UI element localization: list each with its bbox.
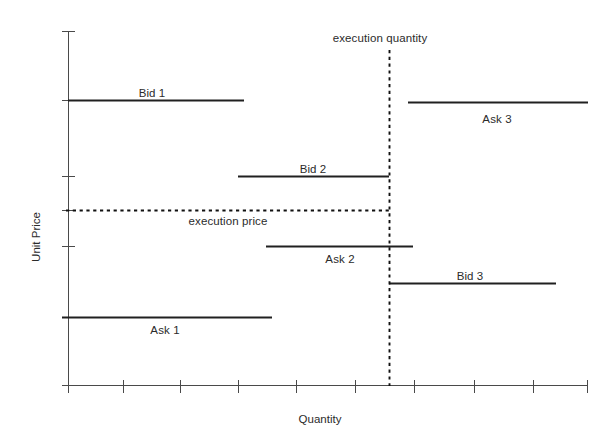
series-label-ask-2: Ask 2 bbox=[325, 254, 354, 266]
order-book-chart: Bid 1 Bid 2 Bid 3 Ask 1 Ask 2 Ask 3 exec… bbox=[0, 0, 612, 447]
series-label-bid-3: Bid 3 bbox=[457, 271, 484, 283]
y-axis-title: Unit Price bbox=[30, 212, 42, 262]
x-axis-title: Quantity bbox=[299, 413, 342, 425]
chart-canvas bbox=[0, 0, 612, 447]
execution-price-label: execution price bbox=[189, 216, 268, 228]
series-label-bid-2: Bid 2 bbox=[300, 164, 327, 176]
series-label-ask-3: Ask 3 bbox=[482, 114, 511, 126]
series-label-bid-1: Bid 1 bbox=[139, 88, 166, 100]
execution-quantity-label: execution quantity bbox=[333, 33, 428, 45]
series-label-ask-1: Ask 1 bbox=[150, 325, 179, 337]
